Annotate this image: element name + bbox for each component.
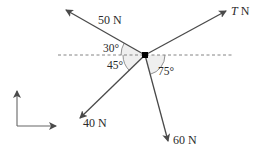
particle-dot [142,52,148,58]
label-50n: 50 N [98,14,122,26]
force-diagram: 50 N T N 30° 45° 75° 40 N 60 N [0,0,260,158]
label-t-unit: N [238,4,250,18]
force-arrow-tn [145,11,226,55]
angle-label-75: 75° [158,66,174,78]
angle-label-30: 30° [103,43,119,55]
label-tn: T N [231,5,249,17]
label-40n: 40 N [83,117,107,129]
diagram-graphics [0,0,260,158]
label-t-variable: T [231,4,238,18]
angle-label-45: 45° [107,60,123,72]
label-60n: 60 N [173,134,197,146]
